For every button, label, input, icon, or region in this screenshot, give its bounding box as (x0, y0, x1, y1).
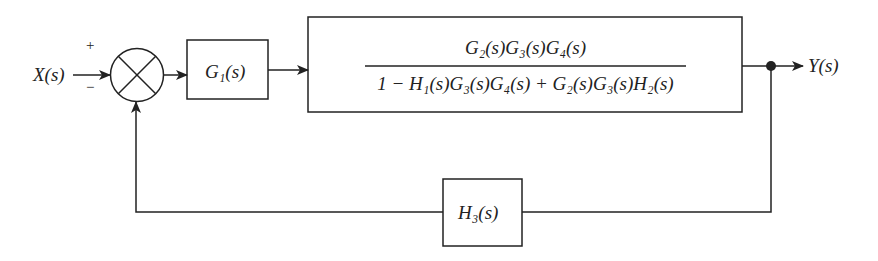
summing-junction (111, 49, 164, 102)
minus-sign: − (86, 80, 94, 95)
forward-denominator: 1 − H₁(s)G₃(s)G₄(s) + G₂(s)G₃(s)H₂(s) (355, 74, 696, 93)
forward-numerator: G₂(s)G₃(s)G₄(s) (365, 38, 686, 57)
forward-block (308, 17, 742, 112)
input-label: X(s) (33, 65, 65, 84)
plus-sign: + (86, 38, 94, 53)
h3-label: H₃(s) (458, 203, 498, 222)
g1-label: G₁(s) (205, 62, 245, 81)
takeoff-point (766, 61, 776, 71)
output-label: Y(s) (808, 56, 839, 75)
feedback-line-left (136, 102, 443, 212)
